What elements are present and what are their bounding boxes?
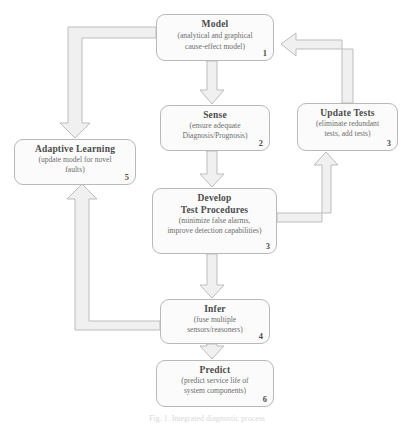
node-sense-subtitle-line1: (ensure adequate [167, 121, 263, 131]
node-develop-test-procedures-subtitle-line2: improve detection capabilities) [159, 226, 270, 236]
node-update-tests-number: 3 [387, 139, 391, 148]
node-update-tests[interactable]: Update Tests (eliminate redundant tests,… [297, 103, 398, 151]
node-sense-number: 2 [259, 139, 263, 148]
node-model-number: 1 [263, 49, 267, 58]
arrow-infer-to-adaptive-learning [67, 184, 160, 330]
node-update-tests-subtitle-line2: tests, add tests) [304, 129, 391, 139]
node-adaptive-learning-subtitle-line1: (update model for novel [21, 155, 129, 165]
arrow-update-tests-to-model [281, 33, 353, 103]
diagram-canvas: Model (analytical and graphical cause-ef… [0, 0, 414, 428]
arrow-model-to-adaptive-learning [60, 27, 156, 138]
node-adaptive-learning[interactable]: Adaptive Learning (update model for nove… [14, 139, 136, 185]
node-update-tests-subtitle-line1: (eliminate redundant [304, 119, 391, 129]
node-develop-test-procedures-number: 3 [266, 242, 270, 251]
node-adaptive-learning-title: Adaptive Learning [21, 143, 129, 155]
node-predict-number: 6 [263, 395, 267, 404]
node-develop-test-procedures-title-line2: Test Procedures [159, 204, 270, 216]
node-infer-subtitle-line1: (fuse multiple [167, 315, 263, 325]
node-adaptive-learning-subtitle-line2: faults) [21, 165, 129, 175]
arrow-infer-to-predict [200, 344, 224, 359]
node-infer-subtitle-line2: sensors/reasoners) [167, 325, 263, 335]
node-model[interactable]: Model (analytical and graphical cause-ef… [156, 14, 274, 61]
node-update-tests-title: Update Tests [304, 107, 391, 119]
node-sense-subtitle-line2: Diagnosis/Prognosis) [167, 131, 263, 141]
arrow-develop-to-update-tests [277, 152, 338, 222]
node-sense[interactable]: Sense (ensure adequate Diagnosis/Prognos… [160, 105, 270, 151]
node-develop-test-procedures-subtitle-line1: (minimize false alarms, [159, 216, 270, 226]
node-develop-test-procedures[interactable]: Develop Test Procedures (minimize false … [152, 188, 277, 254]
node-predict-title: Predict [163, 364, 267, 376]
node-adaptive-learning-number: 5 [125, 173, 129, 182]
node-infer[interactable]: Infer (fuse multiple sensors/reasoners) … [160, 299, 270, 344]
node-predict[interactable]: Predict (predict service life of system … [156, 360, 274, 407]
node-develop-test-procedures-title-line1: Develop [159, 192, 270, 204]
node-predict-subtitle-line1: (predict service life of [163, 376, 267, 386]
node-model-subtitle-line2: cause-effect model) [163, 42, 267, 52]
arrow-develop-to-infer [200, 254, 224, 298]
node-infer-title: Infer [167, 303, 263, 315]
node-infer-number: 4 [259, 332, 263, 341]
arrow-model-to-sense [200, 61, 224, 104]
node-sense-title: Sense [167, 109, 263, 121]
node-model-title: Model [163, 18, 267, 30]
arrow-sense-to-develop [200, 151, 224, 187]
figure-caption: Fig. 1. Integrated diagnostic process [0, 414, 414, 423]
node-predict-subtitle-line2: system components) [163, 386, 267, 396]
node-model-subtitle-line1: (analytical and graphical [163, 31, 267, 41]
